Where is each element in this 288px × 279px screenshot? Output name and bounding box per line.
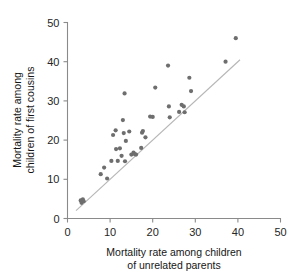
data-point: [234, 36, 238, 40]
data-point: [167, 104, 171, 108]
data-point: [187, 76, 191, 80]
x-tick-label: 20: [147, 226, 159, 238]
x-axis-title: Mortality rate among children of unrelat…: [106, 246, 242, 271]
plot-canvas: 01020304050 01020304050 Mortality rate a…: [0, 0, 288, 279]
data-point: [153, 85, 157, 89]
x-tick-label: 10: [104, 226, 116, 238]
scatter-plot-figure: 01020304050 01020304050 Mortality rate a…: [0, 0, 288, 279]
data-point: [102, 165, 106, 169]
y-axis-ticks: 01020304050: [47, 17, 67, 225]
data-point: [116, 159, 120, 163]
data-point: [118, 146, 122, 150]
data-point: [134, 153, 138, 157]
x-tick-label: 30: [189, 226, 201, 238]
data-point: [143, 135, 147, 139]
data-point: [168, 115, 172, 119]
data-point: [120, 154, 124, 158]
y-tick-label: 30: [47, 95, 59, 107]
y-axis-title-line-1: Mortality rate among: [11, 72, 23, 168]
x-tick-label: 0: [64, 226, 70, 238]
reference-line-group: [76, 60, 240, 211]
data-point: [223, 60, 227, 64]
data-point: [124, 139, 128, 143]
data-points-group: [79, 36, 238, 205]
data-point: [123, 159, 127, 163]
data-point: [189, 89, 193, 93]
data-point: [166, 64, 170, 68]
data-point: [114, 128, 118, 132]
data-point: [141, 129, 145, 133]
data-point: [114, 147, 118, 151]
data-point: [111, 133, 115, 137]
x-tick-label: 50: [274, 226, 286, 238]
y-axis-title-line-2: children of first cousins: [24, 67, 36, 174]
y-tick-label: 40: [47, 56, 59, 68]
data-point: [183, 110, 187, 114]
identity-reference-line: [76, 60, 240, 211]
x-tick-label: 40: [232, 226, 244, 238]
y-axis-group: 01020304050: [47, 17, 67, 225]
data-point: [82, 199, 86, 203]
data-point: [151, 115, 155, 119]
data-point: [127, 129, 131, 133]
data-point: [105, 176, 109, 180]
y-tick-label: 20: [47, 134, 59, 146]
y-axis-title: Mortality rate among children of first c…: [11, 67, 36, 174]
data-point: [109, 159, 113, 163]
y-tick-label: 0: [53, 213, 59, 225]
x-axis-title-line-2: of unrelated parents: [127, 259, 220, 271]
data-point: [122, 91, 126, 95]
data-point: [139, 146, 143, 150]
data-point: [122, 131, 126, 135]
data-point: [99, 172, 103, 176]
x-axis-group: 01020304050: [64, 219, 286, 238]
data-point: [121, 118, 125, 122]
y-tick-label: 50: [47, 17, 59, 29]
data-point: [177, 110, 181, 114]
data-point: [182, 104, 186, 108]
x-axis-ticks: 01020304050: [64, 219, 286, 238]
x-axis-title-line-1: Mortality rate among children: [106, 246, 242, 258]
y-tick-label: 10: [47, 173, 59, 185]
